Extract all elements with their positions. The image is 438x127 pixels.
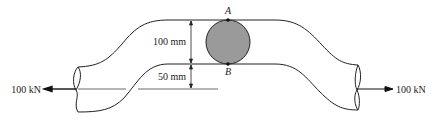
right-break-end — [355, 65, 361, 110]
load-arrow-right — [357, 87, 393, 92]
diagram-canvas: A B 100 mm 50 mm 100 kN 100 kN — [0, 0, 438, 127]
label-point-b: B — [225, 66, 231, 77]
label-load-right: 100 kN — [396, 84, 426, 95]
cross-section-circle — [206, 20, 250, 64]
label-point-a: A — [224, 5, 232, 16]
load-arrow-left — [44, 87, 76, 92]
label-dimension-100mm: 100 mm — [153, 36, 186, 47]
label-dimension-50mm: 50 mm — [158, 71, 186, 82]
label-load-left: 100 kN — [11, 84, 41, 95]
bar-bottom-edge — [78, 64, 358, 112]
point-a-marker — [226, 18, 230, 22]
dimension-lines — [190, 21, 193, 88]
